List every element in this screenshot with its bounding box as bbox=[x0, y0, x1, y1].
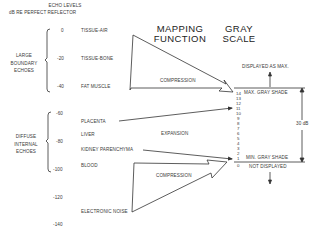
kidney-arrow bbox=[143, 150, 232, 159]
diffuse-internal-bracket bbox=[46, 112, 51, 172]
large-boundary-bracket bbox=[45, 29, 50, 92]
compression-top-arrow-shape bbox=[130, 35, 233, 92]
placenta-arrow bbox=[119, 108, 232, 121]
compression-bottom-arrow-shape bbox=[132, 160, 227, 212]
diagram-lines bbox=[0, 0, 315, 235]
